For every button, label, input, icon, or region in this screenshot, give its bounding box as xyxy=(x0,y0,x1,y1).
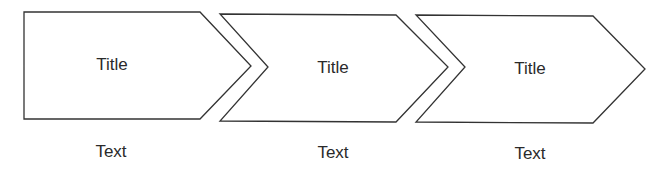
step-2-title: Title xyxy=(317,58,349,78)
step-3-title: Title xyxy=(514,59,546,79)
step-1-title: Title xyxy=(96,55,128,75)
step-3-text: Text xyxy=(514,144,545,164)
step-1-text: Text xyxy=(95,142,126,162)
step-2-text: Text xyxy=(317,143,348,163)
chevron-step-1-shape xyxy=(24,12,251,119)
